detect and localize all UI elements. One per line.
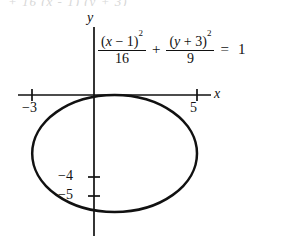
left-constant-1: 1: [127, 34, 134, 49]
right-fraction-numerator: (y + 3)2: [166, 33, 214, 51]
x-tick-label-neg3: −3: [22, 100, 37, 116]
y-tick-label-neg4: −4: [58, 168, 73, 184]
right-fraction: (y + 3)2 9: [166, 33, 214, 66]
ellipse-graph-figure: + 16 (x - 1) (y + 3) (x − 1)2 16 + (y + …: [0, 0, 295, 238]
left-fraction-numerator: (x − 1)2: [98, 33, 146, 51]
x-axis-label: x: [214, 86, 220, 102]
left-exponent-2: 2: [138, 28, 143, 38]
left-fraction-denominator: 16: [115, 51, 129, 66]
right-exponent-2: 2: [207, 28, 212, 38]
equation-rhs-value: 1: [238, 42, 246, 57]
left-minus-operator: −: [112, 34, 127, 49]
ellipse-equation: (x − 1)2 16 + (y + 3)2 9 = 1: [96, 33, 245, 66]
right-fraction-denominator: 9: [187, 51, 194, 66]
ellipse-curve: [32, 95, 197, 212]
x-tick-label-5: 5: [190, 100, 197, 116]
y-tick-label-neg5: −5: [58, 187, 73, 203]
y-axis-label: y: [87, 10, 93, 26]
equals-sign: =: [220, 42, 228, 57]
right-plus-operator: +: [180, 34, 195, 49]
left-fraction: (x − 1)2 16: [98, 33, 146, 66]
plus-operator: +: [152, 42, 160, 57]
